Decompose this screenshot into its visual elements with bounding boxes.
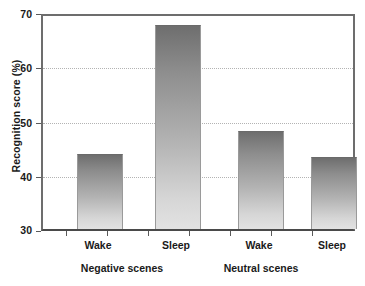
- bar-chart-figure: Recognition score (%) 70 60 50 40 30 Wak…: [0, 0, 365, 286]
- y-tick-label-30: 30: [2, 224, 32, 236]
- y-tick-label-40: 40: [2, 171, 32, 183]
- x-tick-label-negative-wake: Wake: [63, 239, 133, 251]
- y-tick-label-60: 60: [2, 62, 32, 74]
- y-tick-mark-30: [36, 231, 41, 232]
- x-tick-mark-3: [189, 231, 190, 236]
- y-tick-label-70: 70: [2, 8, 32, 20]
- x-tick-mark-4: [230, 231, 231, 236]
- x-tick-mark-6: [312, 231, 313, 236]
- x-tick-mark-5: [271, 231, 272, 236]
- bar-neutral-wake: [238, 131, 284, 229]
- y-tick-label-50: 50: [2, 117, 32, 129]
- x-tick-mark-1: [107, 231, 108, 236]
- x-tick-label-negative-sleep: Sleep: [141, 239, 211, 251]
- group-label-neutral-scenes: Neutral scenes: [191, 262, 331, 274]
- bar-negative-wake: [77, 154, 123, 229]
- x-tick-mark-0: [66, 231, 67, 236]
- bar-negative-sleep: [155, 25, 201, 229]
- x-tick-mark-2: [148, 231, 149, 236]
- plot-area: [41, 14, 355, 231]
- x-tick-label-neutral-sleep: Sleep: [297, 239, 365, 251]
- x-tick-label-neutral-wake: Wake: [224, 239, 294, 251]
- bar-neutral-sleep: [311, 157, 357, 229]
- group-label-negative-scenes: Negative scenes: [52, 262, 192, 274]
